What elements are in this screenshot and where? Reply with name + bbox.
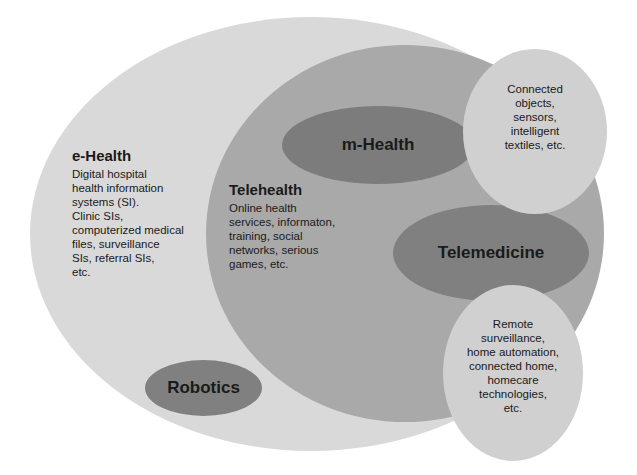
- robotics-title: Robotics: [167, 378, 240, 398]
- remote-line: home automation,: [443, 345, 583, 359]
- telehealth-line: Online health: [229, 201, 335, 215]
- ehealth-line: Clinic SIs,: [72, 209, 184, 223]
- remote-text: Remote surveillance, home automation, co…: [443, 317, 583, 415]
- ehealth-line: Digital hospital: [72, 167, 184, 181]
- connected-line: objects,: [463, 96, 607, 110]
- ehealth-text: e-Health Digital hospital health informa…: [72, 147, 184, 279]
- telehealth-title: Telehealth: [229, 181, 335, 199]
- ehealth-line: files, surveillance: [72, 237, 184, 251]
- remote-line: technologies,: [443, 387, 583, 401]
- telehealth-line: games, etc.: [229, 257, 335, 271]
- ehealth-line: SIs, referral SIs,: [72, 251, 184, 265]
- mhealth-title: m-Health: [342, 135, 415, 155]
- mhealth-label: m-Health: [282, 106, 474, 184]
- ehealth-line: etc.: [72, 265, 184, 279]
- robotics-label: Robotics: [145, 360, 262, 416]
- connected-line: Connected: [463, 82, 607, 96]
- remote-line: surveillance,: [443, 331, 583, 345]
- remote-line: homecare: [443, 373, 583, 387]
- telehealth-line: networks, serious: [229, 243, 335, 257]
- connected-line: intelligent: [463, 124, 607, 138]
- ehealth-line: systems (SI).: [72, 195, 184, 209]
- remote-line: Remote: [443, 317, 583, 331]
- connected-line: sensors,: [463, 110, 607, 124]
- remote-line: etc.: [443, 401, 583, 415]
- telemedicine-label: Telemedicine: [393, 205, 589, 301]
- connected-line: textiles, etc.: [463, 138, 607, 152]
- ehealth-line: health information: [72, 181, 184, 195]
- ehealth-line: computerized medical: [72, 223, 184, 237]
- connected-objects-text: Connected objects, sensors, intelligent …: [463, 82, 607, 152]
- remote-line: connected home,: [443, 359, 583, 373]
- telemedicine-title: Telemedicine: [438, 243, 544, 263]
- telehealth-line: services, informaton,: [229, 215, 335, 229]
- telehealth-line: training, social: [229, 229, 335, 243]
- telehealth-text: Telehealth Online health services, infor…: [229, 181, 335, 271]
- ehealth-title: e-Health: [72, 147, 184, 165]
